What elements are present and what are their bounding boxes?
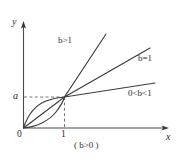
annotation-b-equals-1: b=1 <box>138 54 152 63</box>
axes-group <box>21 21 169 131</box>
origin-tick-label: 0 <box>17 130 22 140</box>
annotation-b-greater-than-1: b>1 <box>58 36 72 45</box>
power-function-figure: y x 0 1 a b>1 b=1 0<b<1 ( b>0 ) <box>0 0 177 160</box>
plot-canvas <box>0 0 177 160</box>
figure-caption: ( b>0 ) <box>74 141 99 150</box>
curves-group <box>24 34 156 128</box>
x-tick-label-one: 1 <box>61 130 66 140</box>
y-tick-label-a: a <box>13 91 18 101</box>
x-axis-label: x <box>166 132 170 142</box>
annotation-b-between-0-and-1: 0<b<1 <box>128 89 152 98</box>
y-axis-label: y <box>12 17 16 27</box>
